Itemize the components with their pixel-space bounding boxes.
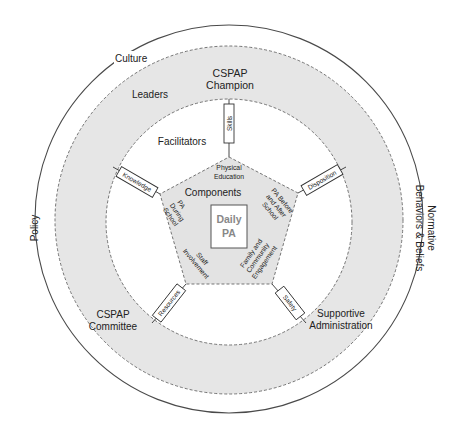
cspap-diagram: Daily PA Skills Knowledge Disposition Re… xyxy=(0,0,460,432)
connector-skills: Skills xyxy=(224,104,234,143)
physical-education-line1: Physical xyxy=(216,164,242,172)
physical-education-line2: Education xyxy=(214,173,244,180)
culture-label: Culture xyxy=(115,53,148,64)
supportive-admin-line2: Administration xyxy=(309,320,372,331)
normative-label: Normative xyxy=(426,205,437,251)
behaviors-beliefs-label: Behaviors & Beliefs xyxy=(414,185,425,272)
policy-label: Policy xyxy=(29,215,40,242)
daily-pa-line2: PA xyxy=(222,227,236,239)
skills-label: Skills xyxy=(226,115,233,131)
cspap-committee-line2: Committee xyxy=(89,321,138,332)
cspap-champion-line1: CSPAP xyxy=(213,67,248,79)
daily-pa-line1: Daily xyxy=(216,213,241,225)
cspap-champion-line2: Champion xyxy=(206,79,254,91)
facilitators-label: Facilitators xyxy=(158,136,206,147)
cspap-committee-line1: CSPAP xyxy=(96,309,129,320)
supportive-admin-line1: Supportive xyxy=(317,308,365,319)
components-label: Components xyxy=(185,187,242,198)
leaders-label: Leaders xyxy=(132,89,168,100)
